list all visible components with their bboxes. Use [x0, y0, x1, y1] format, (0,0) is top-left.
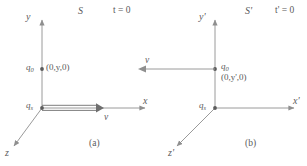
source-charge-subscript: s	[204, 104, 207, 111]
time-label: t' = 0	[275, 6, 294, 16]
test-charge-coordinates: (0,y',0)	[221, 73, 247, 82]
panel-caption: (b)	[245, 139, 256, 149]
panel-a: y x z S t = 0 q0 (0,y,0) qs v (a)	[0, 0, 153, 166]
source-charge-dot	[40, 106, 44, 110]
test-charge-label: q0	[26, 63, 34, 73]
panel-a-axes	[0, 0, 153, 166]
test-charge-coordinates: (0,y,0)	[46, 63, 69, 72]
z-axis-label: z'	[168, 148, 174, 158]
frame-label: S'	[245, 6, 252, 16]
y-axis-label: y'	[199, 12, 206, 22]
test-charge-group: q0 (0,y',0)	[221, 62, 247, 82]
source-charge-subscript: s	[31, 104, 34, 111]
source-charge-label: qs	[199, 101, 206, 111]
test-charge-subscript: 0	[226, 65, 229, 72]
frame-label: S	[78, 6, 83, 16]
z-axis-line	[177, 108, 215, 146]
velocity-label: v	[104, 113, 108, 123]
x-axis-label: x'	[293, 96, 300, 106]
source-charge-label: qs	[26, 101, 33, 111]
y-axis-label: y	[26, 12, 30, 22]
relativity-frames-figure: y x z S t = 0 q0 (0,y,0) qs v (a)	[0, 0, 307, 166]
x-axis-label: x	[143, 96, 147, 106]
source-charge-dot	[213, 106, 217, 110]
z-axis-label: z	[5, 148, 9, 158]
panel-b: y' x' z' S' t' = 0 q0 (0,y',0) qs v (b)	[153, 0, 306, 166]
velocity-label: v	[145, 56, 149, 66]
velocity-arrowhead	[96, 103, 104, 112]
z-axis-line	[14, 108, 42, 146]
time-label: t = 0	[113, 6, 131, 16]
panel-b-axes	[153, 0, 306, 166]
panel-caption: (a)	[89, 139, 100, 149]
test-charge-dot	[40, 67, 44, 71]
test-charge-subscript: 0	[31, 66, 34, 73]
